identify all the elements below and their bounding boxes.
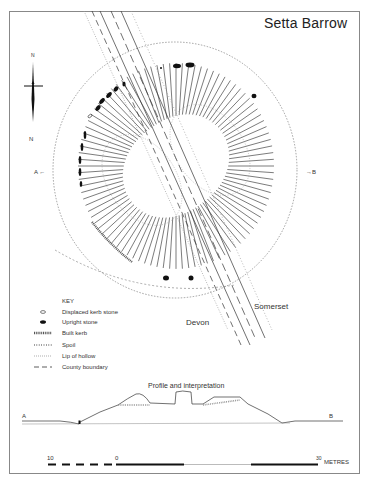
key-heading: KEY bbox=[62, 298, 74, 304]
scale-bar bbox=[48, 464, 318, 466]
key-item-spoil: Spoil bbox=[62, 342, 75, 348]
scale-unit: METRES bbox=[324, 459, 349, 465]
scale-label-left: 10 bbox=[47, 455, 54, 461]
barrow-plan bbox=[0, 0, 368, 482]
profile-section bbox=[22, 391, 343, 424]
north-label: N bbox=[29, 136, 33, 142]
key-item-built-kerb: Built kerb bbox=[62, 330, 87, 336]
upright-stones bbox=[79, 63, 257, 281]
profile-label-b: B bbox=[329, 413, 333, 419]
section-marker-b: →B bbox=[306, 169, 316, 175]
displaced-kerb-stone-icon bbox=[41, 311, 46, 314]
road-county-boundary bbox=[84, 11, 272, 345]
key-item-displaced-kerb-stone: Displaced kerb stone bbox=[62, 309, 118, 315]
key-item-county-boundary: County boundary bbox=[62, 364, 108, 370]
north-arrow-icon bbox=[24, 62, 43, 122]
section-marker-a: A ← bbox=[34, 169, 45, 175]
key-item-lip-of-hollow: Lip of hollow bbox=[62, 353, 95, 359]
scale-label-right: 30 bbox=[316, 455, 322, 461]
key-symbols bbox=[34, 311, 52, 367]
scale-label-zero: 0 bbox=[115, 455, 118, 461]
profile-title: Profile and interpretation bbox=[148, 382, 224, 389]
key-item-upright-stone: Upright stone bbox=[62, 319, 98, 325]
north-arrow-label: N bbox=[31, 52, 35, 58]
displaced-kerb-stone-icon bbox=[87, 114, 92, 119]
built-kerb bbox=[92, 222, 132, 262]
lip-of-hollow-outline bbox=[53, 42, 297, 298]
upright-stone-icon bbox=[40, 320, 46, 324]
county-boundary-line bbox=[55, 250, 235, 288]
county-label-somerset: Somerset bbox=[254, 302, 288, 311]
inner-spoil-west bbox=[85, 120, 198, 241]
profile-label-a: A bbox=[22, 413, 26, 419]
county-label-devon: Devon bbox=[186, 318, 209, 327]
